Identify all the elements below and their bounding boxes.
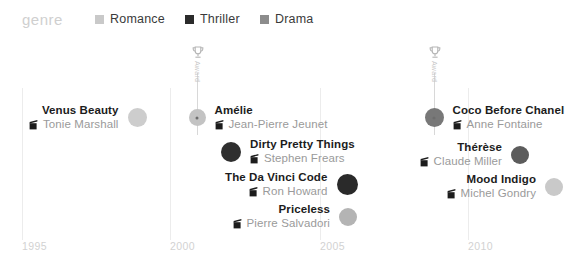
genre-dot-drama [339, 208, 357, 226]
data-point[interactable]: Dirty Pretty ThingsStephen Frears [221, 138, 355, 165]
data-point-labels: The Da Vinci CodeRon Howard [225, 171, 327, 198]
gridline-1995 [22, 88, 23, 240]
director-row: Tonie Marshall [29, 118, 119, 132]
data-point[interactable]: ThérèseClaude Miller [420, 141, 529, 168]
genre-dot-romance [128, 108, 147, 127]
data-point-marker[interactable] [128, 108, 147, 127]
legend-item-drama[interactable]: Drama [260, 12, 314, 26]
movie-title: Thérèse [457, 141, 502, 155]
award-marker-dot [196, 116, 199, 119]
data-point[interactable]: The Da Vinci CodeRon Howard [225, 171, 357, 198]
data-point[interactable]: Mood IndigoMichel Gondry [447, 173, 563, 200]
x-axis-tick-label: 2010 [468, 240, 493, 252]
clapperboard-icon [250, 153, 260, 164]
legend-item-thriller[interactable]: Thriller [185, 12, 240, 26]
legend-swatch-thriller [185, 15, 194, 24]
legend-label: Drama [275, 12, 314, 26]
trophy-icon [191, 45, 205, 61]
legend-swatch-romance [95, 15, 104, 24]
data-point-marker[interactable] [189, 109, 206, 126]
movie-director: Jean-Pierre Jeunet [229, 118, 328, 132]
award-marker-dot [433, 116, 436, 119]
data-point-marker[interactable] [545, 178, 563, 196]
movie-title: The Da Vinci Code [225, 171, 327, 185]
clapperboard-icon [233, 218, 243, 229]
award-label: Award [194, 61, 201, 82]
data-point[interactable]: AmélieJean-Pierre Jeunet [189, 104, 328, 131]
data-point[interactable]: PricelessPierre Salvadori [233, 203, 357, 230]
x-axis-tick-label: 1995 [22, 240, 47, 252]
data-point-labels: PricelessPierre Salvadori [233, 203, 330, 230]
legend-title: genre [22, 11, 63, 28]
legend-item-romance[interactable]: Romance [95, 12, 165, 26]
trophy-icon [428, 45, 442, 61]
movie-director: Tonie Marshall [43, 118, 119, 132]
movie-title: Mood Indigo [467, 173, 536, 187]
data-point-labels: Coco Before ChanelAnne Fontaine [453, 104, 565, 131]
timeline-chart: genre RomanceThrillerDrama 1995200020052… [0, 0, 568, 266]
clapperboard-icon [215, 119, 225, 130]
genre-dot-romance [545, 178, 563, 196]
clapperboard-icon [420, 156, 430, 167]
clapperboard-icon [29, 119, 39, 130]
director-row: Jean-Pierre Jeunet [215, 118, 328, 132]
data-point-labels: Mood IndigoMichel Gondry [447, 173, 536, 200]
data-point[interactable]: Coco Before ChanelAnne Fontaine [425, 104, 565, 131]
data-point-labels: Dirty Pretty ThingsStephen Frears [250, 138, 355, 165]
data-point-marker[interactable] [425, 108, 444, 127]
director-row: Stephen Frears [250, 152, 345, 166]
movie-title: Dirty Pretty Things [250, 138, 355, 152]
clapperboard-icon [249, 186, 259, 197]
clapperboard-icon [447, 188, 457, 199]
chart-legend: genre RomanceThrillerDrama [0, 0, 568, 40]
movie-director: Anne Fontaine [467, 118, 543, 132]
legend-label: Romance [110, 12, 165, 26]
movie-title: Coco Before Chanel [453, 104, 565, 118]
x-axis-tick-label: 2000 [170, 240, 195, 252]
genre-dot-thriller [337, 174, 358, 195]
director-row: Claude Miller [420, 155, 502, 169]
data-point-marker[interactable] [337, 174, 358, 195]
data-point-labels: ThérèseClaude Miller [420, 141, 502, 168]
genre-dot-thriller [221, 142, 241, 162]
gridline-2000 [170, 88, 171, 240]
movie-title: Amélie [215, 104, 253, 118]
data-point-marker[interactable] [339, 208, 357, 226]
data-point-marker[interactable] [221, 142, 241, 162]
movie-title: Priceless [279, 203, 330, 217]
data-point-marker[interactable] [511, 146, 529, 164]
director-row: Anne Fontaine [453, 118, 543, 132]
director-row: Michel Gondry [447, 187, 536, 201]
movie-director: Claude Miller [434, 155, 502, 169]
movie-title: Venus Beauty [42, 104, 119, 118]
award-label: Award [431, 61, 438, 82]
legend-swatch-drama [260, 15, 269, 24]
movie-director: Michel Gondry [461, 187, 536, 201]
legend-label: Thriller [200, 12, 240, 26]
x-axis-tick-label: 2005 [320, 240, 345, 252]
movie-director: Stephen Frears [264, 152, 345, 166]
clapperboard-icon [453, 119, 463, 130]
director-row: Ron Howard [249, 185, 328, 199]
movie-director: Ron Howard [263, 185, 328, 199]
data-point[interactable]: Venus BeautyTonie Marshall [29, 104, 147, 131]
data-point-labels: AmélieJean-Pierre Jeunet [215, 104, 328, 131]
director-row: Pierre Salvadori [233, 217, 330, 231]
movie-director: Pierre Salvadori [247, 217, 330, 231]
data-point-labels: Venus BeautyTonie Marshall [29, 104, 119, 131]
genre-dot-drama [511, 146, 529, 164]
